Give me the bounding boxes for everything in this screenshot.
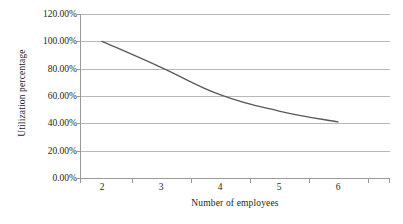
x-axis-tick-labels: 23456 bbox=[80, 181, 390, 195]
series-path bbox=[102, 41, 338, 122]
x-tick-label: 4 bbox=[200, 181, 240, 193]
y-tick-label: 100.00% bbox=[20, 36, 77, 46]
y-axis-tick-labels: 0.00%20.00%40.00%60.00%80.00%100.00%120.… bbox=[20, 14, 77, 178]
y-tick-label: 120.00% bbox=[20, 9, 77, 19]
x-axis-line bbox=[80, 178, 390, 179]
x-tick-label: 5 bbox=[259, 181, 299, 193]
utilization-line-series bbox=[80, 14, 390, 178]
y-tick-label: 60.00% bbox=[20, 91, 77, 101]
y-tick-label: 20.00% bbox=[20, 146, 77, 156]
x-tick-label: 2 bbox=[82, 181, 122, 193]
x-tick-label: 3 bbox=[141, 181, 181, 193]
y-tick-label: 80.00% bbox=[20, 64, 77, 74]
line-chart: Utilization percentage 0.00%20.00%40.00%… bbox=[0, 0, 403, 224]
x-axis-title: Number of employees bbox=[80, 198, 390, 208]
y-tick-label: 0.00% bbox=[20, 173, 77, 183]
plot-area bbox=[80, 14, 390, 178]
y-tick-label: 40.00% bbox=[20, 118, 77, 128]
x-tick-label: 6 bbox=[318, 181, 358, 193]
